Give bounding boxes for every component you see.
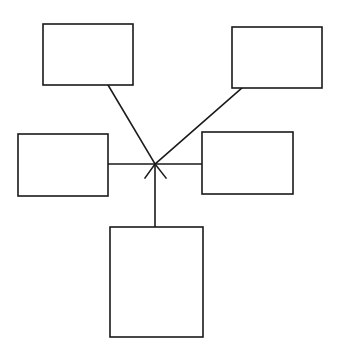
node-box [232, 27, 322, 88]
node-middle-right [202, 132, 293, 194]
hub-cross-tail-1 [155, 164, 166, 178]
diagram-nodes [18, 24, 322, 337]
node-bottom [110, 227, 203, 337]
node-box [110, 227, 203, 337]
node-box [18, 134, 108, 196]
node-middle-left [18, 134, 108, 196]
node-box [202, 132, 293, 194]
node-top-right [232, 27, 322, 88]
node-box [43, 24, 133, 85]
hub-cross-tail-0 [145, 164, 155, 178]
edge-top-left [108, 85, 155, 164]
node-top-left [43, 24, 133, 85]
star-diagram [0, 0, 342, 359]
